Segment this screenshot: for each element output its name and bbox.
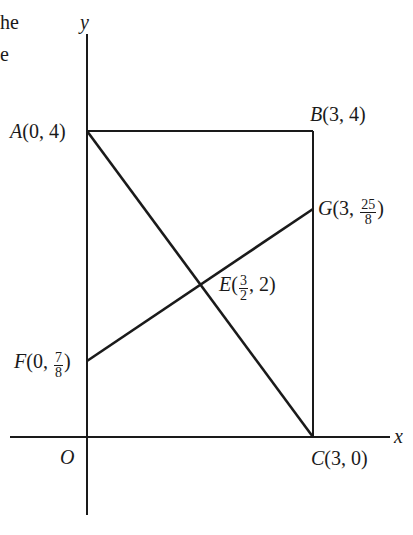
point-suffix-F: ) [64,350,71,372]
point-prefix-F: (0, [26,350,53,372]
point-label-A: A(0, 4) [10,121,66,141]
point-label-G: G(3, 258) [318,196,384,225]
point-suffix-E: , 2) [249,273,276,295]
origin-label: O [60,447,74,467]
segment-FG [87,209,313,361]
fraction-G: 258 [360,198,376,227]
fraction-numerator: 25 [360,198,376,213]
point-name-E: E [219,273,231,295]
fraction-numerator: 7 [54,351,63,366]
fraction-E: 32 [239,274,248,303]
point-name-A: A [10,120,22,142]
point-name-B: B [310,103,322,125]
fraction-denominator: 8 [54,366,63,380]
cropped-text-line-1: he [0,12,19,32]
point-name-C: C [311,447,324,469]
point-label-F: F(0, 78) [14,349,71,378]
point-name-F: F [14,350,26,372]
point-label-C: C(3, 0) [311,448,368,468]
point-prefix-G: (3, [332,197,359,219]
fraction-denominator: 8 [364,213,373,227]
point-name-G: G [318,197,332,219]
point-label-E: E(32, 2) [219,272,276,301]
point-suffix-G: ) [377,197,384,219]
point-coords-B: (3, 4) [322,103,365,125]
point-label-B: B(3, 4) [310,104,366,124]
point-coords-A: (0, 4) [22,120,65,142]
point-coords-C: (3, 0) [324,447,367,469]
fraction-F: 78 [54,351,63,380]
point-prefix-E: ( [231,273,238,295]
cropped-text-line-2: e [0,44,9,64]
fraction-denominator: 2 [239,289,248,303]
y-axis-label: y [80,12,89,32]
x-axis-label: x [394,426,403,446]
fraction-numerator: 3 [239,274,248,289]
